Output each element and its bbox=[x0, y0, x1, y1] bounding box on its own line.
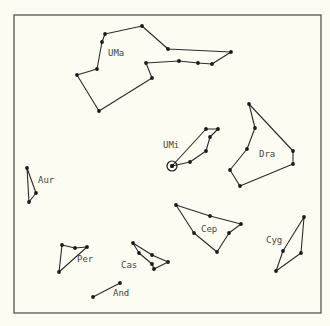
star-dot-icon bbox=[140, 24, 144, 28]
constellation-label: UMa bbox=[108, 48, 124, 58]
constellation-label: And bbox=[113, 288, 129, 298]
star-dot-icon bbox=[103, 32, 107, 36]
star-dot-icon bbox=[150, 253, 154, 257]
constellation-label: Dra bbox=[259, 149, 275, 159]
constellation-aur: Aur bbox=[25, 166, 55, 204]
star-dot-icon bbox=[227, 231, 231, 235]
constellation-cep: Cep bbox=[174, 203, 243, 254]
star-dot-icon bbox=[57, 270, 61, 274]
polaris-star-icon bbox=[170, 164, 174, 168]
star-dot-icon bbox=[253, 126, 257, 130]
constellation-umi: UMi bbox=[163, 127, 220, 168]
constellation-dra: Dra bbox=[228, 102, 295, 188]
star-dot-icon bbox=[238, 184, 242, 188]
constellation-line bbox=[27, 168, 36, 202]
star-dot-icon bbox=[281, 249, 285, 253]
star-dot-icon bbox=[100, 40, 104, 44]
constellation-label: UMi bbox=[163, 140, 179, 150]
star-dot-icon bbox=[215, 250, 219, 254]
constellation-cas: Cas bbox=[121, 241, 170, 271]
constellation-and: And bbox=[91, 281, 129, 299]
star-dot-icon bbox=[174, 203, 178, 207]
star-dot-icon bbox=[291, 162, 295, 166]
star-dot-icon bbox=[196, 61, 200, 65]
constellation-label: Cas bbox=[121, 260, 137, 270]
star-dot-icon bbox=[210, 62, 214, 66]
star-dot-icon bbox=[144, 61, 148, 65]
star-dot-icon bbox=[216, 127, 220, 131]
star-dot-icon bbox=[208, 214, 212, 218]
star-dot-icon bbox=[85, 245, 89, 249]
star-dot-icon bbox=[204, 149, 208, 153]
constellation-label: Cep bbox=[201, 224, 217, 234]
constellation-line bbox=[77, 26, 231, 111]
constellation-cyg: Cyg bbox=[266, 215, 306, 273]
constellation-label: Cyg bbox=[266, 235, 282, 245]
constellation-label: Aur bbox=[38, 175, 55, 185]
star-dot-icon bbox=[73, 246, 77, 250]
star-dot-icon bbox=[274, 269, 278, 273]
star-dot-icon bbox=[34, 191, 38, 195]
constellation-label: Per bbox=[77, 254, 94, 264]
star-dot-icon bbox=[131, 241, 135, 245]
star-dot-icon bbox=[229, 50, 233, 54]
star-dot-icon bbox=[247, 102, 251, 106]
constellation-layer: UMaUMiDraAurCepCygPerCasAnd bbox=[25, 24, 306, 299]
star-dot-icon bbox=[208, 135, 212, 139]
star-dot-icon bbox=[150, 76, 154, 80]
constellation-line bbox=[230, 104, 293, 186]
star-dot-icon bbox=[150, 262, 154, 266]
star-dot-icon bbox=[91, 295, 95, 299]
star-dot-icon bbox=[137, 251, 141, 255]
star-dot-icon bbox=[166, 260, 170, 264]
star-dot-icon bbox=[291, 149, 295, 153]
star-dot-icon bbox=[152, 267, 156, 271]
constellation-per: Per bbox=[57, 243, 94, 274]
star-dot-icon bbox=[95, 67, 99, 71]
star-dot-icon bbox=[299, 251, 303, 255]
star-dot-icon bbox=[228, 168, 232, 172]
star-dot-icon bbox=[97, 109, 101, 113]
star-dot-icon bbox=[25, 166, 29, 170]
star-dot-icon bbox=[177, 59, 181, 63]
star-dot-icon bbox=[239, 222, 243, 226]
constellation-uma: UMa bbox=[75, 24, 233, 113]
star-dot-icon bbox=[118, 281, 122, 285]
star-dot-icon bbox=[302, 215, 306, 219]
star-dot-icon bbox=[166, 47, 170, 51]
star-dot-icon bbox=[245, 147, 249, 151]
star-dot-icon bbox=[188, 160, 192, 164]
constellation-map: UMaUMiDraAurCepCygPerCasAnd bbox=[0, 0, 330, 326]
star-dot-icon bbox=[75, 73, 79, 77]
star-dot-icon bbox=[27, 200, 31, 204]
star-dot-icon bbox=[204, 127, 208, 131]
star-dot-icon bbox=[60, 243, 64, 247]
pole-star-marker bbox=[167, 161, 177, 171]
star-dot-icon bbox=[192, 231, 196, 235]
